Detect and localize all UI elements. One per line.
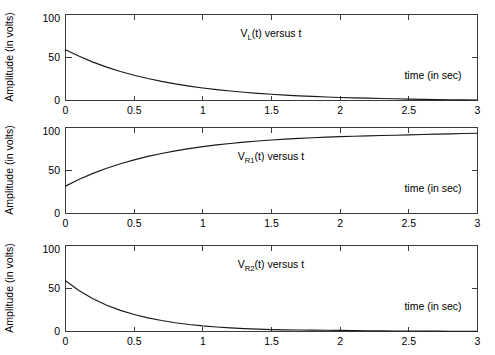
y-tick-label: 100 [42,12,60,24]
y-tick-label: 100 [42,243,60,255]
x-tick-label: 1 [200,335,206,347]
x-tick-label: 0 [63,217,69,229]
plot-title-rest: (t) versus t [255,150,305,162]
plot-title: VL(t) versus t [241,27,302,42]
x-tick-label: 3 [475,335,481,347]
x-tick-label: 2 [337,335,343,347]
plot-title-subscript: R1 [245,156,255,165]
panel-vr1: Amplitude (in volts) 0 50 100 [0,113,495,231]
x-tick-label: 2.5 [401,217,416,229]
plot-title: VR1(t) versus t [238,150,304,165]
y-tick-label: 0 [54,94,60,106]
x-tick-label: 2 [337,217,343,229]
x-tick-label: 3 [475,217,481,229]
x-axis-inline-label: time (in sec) [404,300,461,312]
y-tick-label: 0 [54,325,60,337]
plot-title: VR2(t) versus t [238,258,304,273]
x-axis-inline-label: time (in sec) [404,69,461,81]
x-tick-label: 0.5 [127,335,142,347]
x-tick-label: 2.5 [401,335,416,347]
plot-title-rest: (t) versus t [255,258,305,270]
y-tick-label: 0 [54,207,60,219]
figure-three-subplots: Amplitude (in volts) 0 50 100 [0,0,495,355]
plot-title-subscript: R2 [245,264,255,273]
x-tick-label: 0 [63,335,69,347]
plot-title-rest: (t) versus t [252,27,302,39]
x-axis-inline-label: time (in sec) [404,182,461,194]
plot-vl-svg: Amplitude (in volts) 0 50 100 [0,0,495,118]
panel-vr2: Amplitude (in volts) 0 50 100 [0,231,495,355]
x-tick-label: 1.5 [264,335,279,347]
x-tick-label: 1.5 [264,217,279,229]
y-tick-label: 100 [42,125,60,137]
plot-title-main: V [238,150,245,162]
y-axis-label: Amplitude (in volts) [3,12,15,101]
x-tick-label: 0.5 [127,217,142,229]
plot-title-main: V [241,27,248,39]
y-tick-label: 50 [48,164,60,176]
plot-title-main: V [238,258,245,270]
plot-vr2-svg: Amplitude (in volts) 0 50 100 [0,231,495,355]
y-tick-label: 50 [48,282,60,294]
panel-vl: Amplitude (in volts) 0 50 100 [0,0,495,118]
x-tick-label: 1 [200,217,206,229]
plot-vr1-svg: Amplitude (in volts) 0 50 100 [0,113,495,231]
y-tick-label: 50 [48,51,60,63]
y-axis-label: Amplitude (in volts) [3,243,15,332]
y-axis-label: Amplitude (in volts) [3,125,15,214]
